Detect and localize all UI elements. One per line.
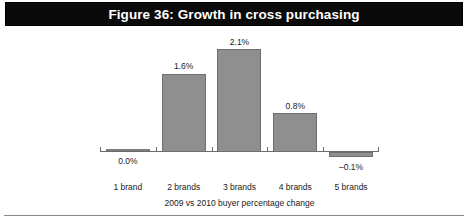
chart-plot-area: 0.0% 1.6% 2.1% 0.8% –0.1%: [100, 32, 379, 152]
bar-2-brands[interactable]: [162, 74, 206, 153]
category-axis: 1 brand 2 brands 3 brands 4 brands 5 bra…: [100, 182, 379, 196]
bar-column: 0.0%: [100, 32, 156, 152]
bar-1-brand[interactable]: [106, 149, 150, 151]
bar-4-brands[interactable]: [273, 113, 317, 152]
bar-column: –0.1%: [323, 32, 379, 152]
bar-label-5-brands: –0.1%: [339, 162, 363, 172]
bar-label-2-brands: 1.6%: [174, 61, 193, 71]
footer-divider: [4, 215, 464, 216]
bar-label-1-brand: 0.0%: [118, 156, 137, 166]
bar-column: 1.6%: [156, 32, 212, 152]
category-label-2-brands: 2 brands: [156, 182, 212, 192]
bar-5-brands[interactable]: [329, 152, 373, 157]
category-label-4-brands: 4 brands: [267, 182, 323, 192]
category-label-3-brands: 3 brands: [212, 182, 268, 192]
figure-title: Figure 36: Growth in cross purchasing: [6, 7, 462, 22]
figure-container: Figure 36: Growth in cross purchasing 0.…: [0, 0, 468, 222]
bar-3-brands[interactable]: [217, 49, 261, 152]
bar-label-3-brands: 2.1%: [230, 37, 249, 47]
bar-column: 2.1%: [212, 32, 268, 152]
bar-column: 0.8%: [267, 32, 323, 152]
category-label-1-brand: 1 brand: [100, 182, 156, 192]
category-label-5-brands: 5 brands: [323, 182, 379, 192]
bar-label-4-brands: 0.8%: [286, 101, 305, 111]
figure-title-bar: Figure 36: Growth in cross purchasing: [5, 2, 463, 26]
axis-title: 2009 vs 2010 buyer percentage change: [100, 198, 379, 208]
